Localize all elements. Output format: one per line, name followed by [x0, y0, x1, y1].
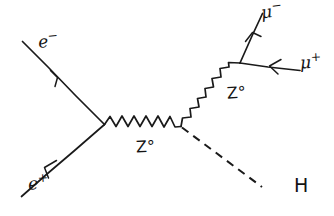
label-electron: e−	[37, 32, 59, 51]
label-muon-plus-charge: +	[310, 50, 321, 65]
label-z-boson-decay: Z°	[226, 84, 246, 101]
z-propagator-horizontal	[105, 116, 182, 127]
label-higgs-boson: H	[294, 176, 308, 195]
label-positron: e+	[27, 174, 48, 192]
label-z-boson-propagator: Z°	[136, 139, 156, 156]
label-muon-plus: μ+	[300, 53, 322, 71]
muon-plus-arrowhead-icon	[270, 60, 282, 75]
label-muon-minus: μ−	[260, 2, 283, 22]
label-electron-charge: −	[47, 28, 59, 43]
higgs-dashed-line	[182, 128, 262, 188]
label-muon-minus-charge: −	[270, 0, 282, 13]
label-positron-charge: +	[37, 171, 48, 186]
electron-incoming-line	[23, 42, 105, 125]
feynman-diagram-canvas: e− e+ Z° Z° μ− μ+ H	[0, 0, 334, 216]
muon-minus-line	[240, 14, 263, 64]
